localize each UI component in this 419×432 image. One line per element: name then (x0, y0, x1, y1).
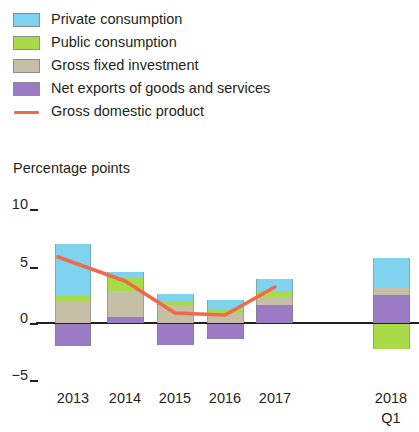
bar-2013-gross-fixed-investment (55, 301, 91, 323)
y-tick-mark-10 (30, 209, 38, 211)
x-tick-label-2018: 2018 (366, 390, 416, 406)
y-tick-label-minus5: −5 (0, 367, 28, 383)
bar-2017-net-exports (256, 305, 293, 323)
bar-2018q1-gross-fixed-investment (373, 287, 410, 295)
bar-2015-gross-fixed-investment (157, 305, 194, 323)
x-tick-sublabel-q1: Q1 (366, 410, 416, 426)
y-tick-mark-minus5 (30, 380, 38, 382)
bar-2016-net-exports (207, 324, 244, 339)
bar-2016-private-consumption (207, 300, 244, 309)
bar-2018q1-private-consumption (373, 258, 410, 287)
x-tick-label-2013: 2013 (48, 390, 98, 406)
bar-2015-net-exports (157, 324, 194, 345)
x-tick-label-2017: 2017 (250, 390, 300, 406)
bar-2014-public-consumption (107, 278, 144, 291)
bar-2016-gross-fixed-investment (207, 313, 244, 323)
y-tick-label-5: 5 (2, 254, 28, 270)
bar-2013-net-exports (55, 324, 91, 346)
bar-2018q1-net-exports (373, 295, 410, 323)
y-tick-label-10: 10 (2, 196, 28, 212)
bar-2017-gross-fixed-investment (256, 297, 293, 305)
y-tick-label-0: 0 (2, 310, 28, 326)
bar-2013-private-consumption (55, 244, 91, 296)
gdp-contributions-chart: Private consumption Public consumption G… (0, 0, 419, 432)
plot-area: 10 5 0 −5 (0, 0, 419, 432)
y-tick-mark-5 (30, 267, 38, 269)
gdp-line-series (0, 0, 419, 432)
bar-2015-private-consumption (157, 294, 194, 301)
x-tick-label-2014: 2014 (100, 390, 150, 406)
bar-2017-private-consumption (256, 279, 293, 291)
x-tick-label-2015: 2015 (150, 390, 200, 406)
bar-2014-gross-fixed-investment (107, 291, 144, 317)
x-tick-label-2016: 2016 (200, 390, 250, 406)
bar-2014-net-exports (107, 317, 144, 323)
bar-2018q1-public-consumption (373, 324, 410, 349)
